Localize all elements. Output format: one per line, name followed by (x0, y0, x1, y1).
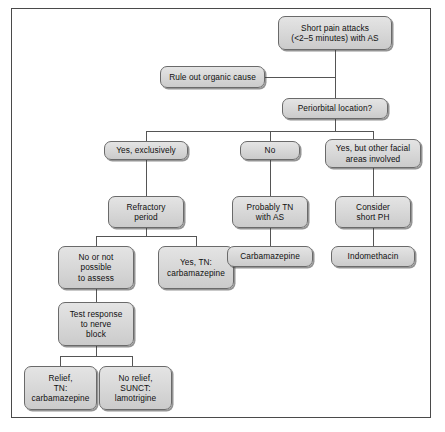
node-relief-tn-carbamazepine: Relief, TN: carbamazepine (24, 366, 97, 410)
node-yes-exclusively: Yes, exclusively (104, 141, 188, 160)
node-refractory-period: Refractory period (108, 196, 184, 228)
node-periorbital-location: Periorbital location? (282, 98, 388, 119)
node-rule-out-organic-cause: Rule out organic cause (160, 66, 265, 88)
node-start: Short pain attacks (<2–5 minutes) with A… (278, 16, 392, 50)
node-carbamazepine: Carbamazepine (227, 246, 313, 267)
node-yes-tn-carbamazepine: Yes, TN: carbamazepine (158, 246, 234, 289)
node-probably-tn-with-as: Probably TN with AS (232, 196, 308, 228)
flowchart-figure: Short pain attacks (<2–5 minutes) with A… (0, 0, 445, 432)
node-no: No (240, 141, 300, 160)
node-no-relief-sunct-lamotrigine: No relief, SUNCT: lamotrigine (99, 366, 172, 410)
node-indomethacin: Indomethacin (331, 246, 415, 267)
node-no-or-not-possible-to-assess: No or not possible to assess (58, 246, 134, 289)
node-test-response-to-nerve-block: Test response to nerve block (58, 302, 134, 346)
node-consider-short-ph: Consider short PH (335, 196, 411, 228)
node-yes-but-other-facial-areas: Yes, but other facial areas involved (325, 139, 421, 168)
